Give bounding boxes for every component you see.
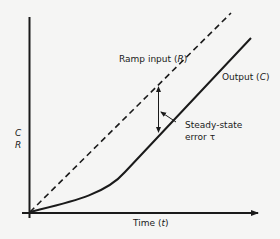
annotation-leader-line	[161, 112, 176, 122]
ramp-input-label: Ramp input (R)	[119, 54, 187, 65]
ramp-response-diagram: C R Ramp input (R) Output (C) Steady-sta…	[0, 0, 280, 239]
output-label: Output (C)	[222, 72, 269, 83]
y-axis-label-r: R	[15, 140, 21, 151]
ramp-input-line	[30, 13, 231, 212]
steady-state-error-label-line2: error τ	[185, 132, 215, 143]
steady-state-error-label-line1: Steady-state	[185, 120, 242, 131]
y-axis-label-c: C	[15, 128, 21, 139]
x-axis-label: Time (t)	[133, 218, 168, 229]
